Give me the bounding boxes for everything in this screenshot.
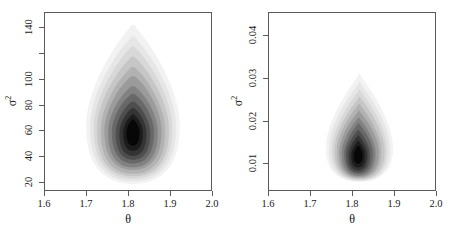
y-tick-label-right: 0.02 [248, 111, 259, 129]
y-tick-label-right: 0.03 [248, 69, 259, 87]
x-tick-label-left: 1.7 [79, 199, 92, 210]
y-tick-label-left: 60 [24, 125, 35, 136]
y-axis-title-right: σ2 [231, 96, 244, 106]
x-tick-label-right: 1.6 [261, 199, 274, 210]
y-tick-label-left: 20 [24, 177, 35, 188]
y-axis-title-right-base: σ [231, 100, 245, 106]
plot-panel-right: 1.61.71.81.92.00.010.020.030.04 θ σ2 [226, 0, 453, 240]
x-tick-label-left: 1.6 [37, 199, 50, 210]
y-tick-left [39, 79, 44, 80]
x-tick-right [310, 191, 311, 196]
y-tick-label-left: 80 [24, 99, 35, 110]
y-tick-left [39, 130, 44, 131]
x-tick-left [212, 191, 213, 196]
y-tick-left [39, 182, 44, 183]
y-tick-label-right: 0.04 [248, 26, 259, 44]
x-tick-right [352, 191, 353, 196]
y-tick-label-left: 140 [24, 20, 35, 36]
x-tick-label-right: 1.8 [345, 199, 358, 210]
x-tick-label-left: 1.8 [121, 199, 134, 210]
y-tick-label-right: 0.01 [248, 154, 259, 172]
y-axis-title-left-exponent: 2 [4, 96, 13, 100]
y-tick-left [39, 53, 44, 54]
x-tick-left [86, 191, 87, 196]
x-tick-label-right: 1.7 [303, 199, 316, 210]
y-tick-right [263, 121, 268, 122]
x-tick-left [128, 191, 129, 196]
x-tick-label-left: 1.9 [163, 199, 176, 210]
x-axis-title-left: θ [125, 213, 131, 225]
y-tick-right [263, 78, 268, 79]
x-tick-left [44, 191, 45, 196]
y-tick-left [39, 27, 44, 28]
density-contour-right [269, 13, 435, 190]
x-tick-right [268, 191, 269, 196]
x-tick-label-right: 2.0 [429, 199, 442, 210]
plot-panel-left: 1.61.71.81.92.020406080100140 θ σ2 [0, 0, 226, 240]
y-tick-left [39, 156, 44, 157]
y-tick-label-left: 40 [24, 151, 35, 162]
figure-canvas: 1.61.71.81.92.020406080100140 θ σ2 1.61.… [0, 0, 453, 240]
y-tick-left [39, 105, 44, 106]
x-tick-left [170, 191, 171, 196]
x-tick-label-left: 2.0 [205, 199, 218, 210]
density-contour-left [45, 13, 211, 190]
y-axis-title-right-exponent: 2 [230, 96, 239, 100]
x-tick-right [436, 191, 437, 196]
y-axis-title-left: σ2 [5, 96, 18, 106]
plot-area-right [268, 12, 436, 191]
y-axis-title-left-base: σ [5, 100, 19, 106]
x-axis-title-right: θ [349, 213, 355, 225]
plot-area-left [44, 12, 212, 191]
x-tick-right [394, 191, 395, 196]
y-tick-right [263, 35, 268, 36]
x-tick-label-right: 1.9 [387, 199, 400, 210]
y-tick-label-left: 100 [24, 71, 35, 87]
y-tick-right [263, 163, 268, 164]
